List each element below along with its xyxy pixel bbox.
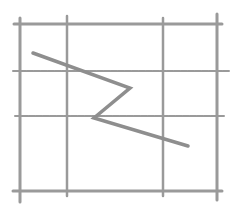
vertical-grid-lines [20,14,217,202]
sketch-diagram [0,0,237,205]
horizontal-grid-lines [13,24,229,191]
zigzag-line [33,53,188,146]
grid-sketch [0,0,237,205]
